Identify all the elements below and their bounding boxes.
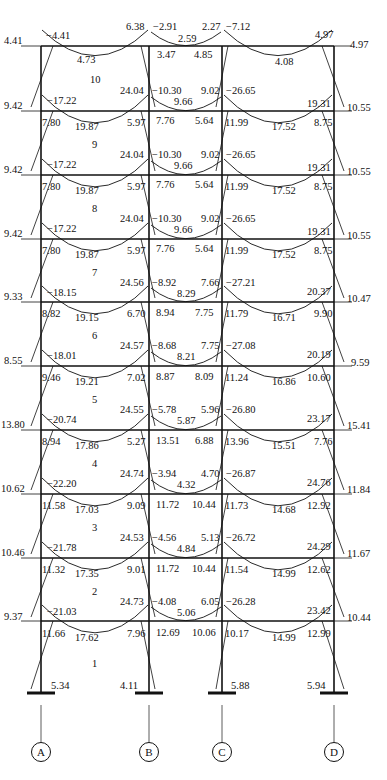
moment-value-label: 24.55 (120, 405, 144, 416)
moment-value-label: −26.87 (226, 469, 256, 480)
moment-value-label: 11.66 (42, 629, 65, 640)
moment-value-label: 8.94 (42, 437, 60, 448)
moment-value-label: 8.55 (4, 356, 22, 367)
moment-value-label: −4.08 (152, 597, 176, 608)
moment-value-label: 16.71 (272, 313, 296, 324)
moment-value-label: 9.09 (127, 501, 145, 512)
moment-value-label: 4.11 (120, 681, 138, 692)
moment-value-label: −27.08 (226, 341, 256, 352)
moment-value-label: −26.80 (226, 405, 256, 416)
moment-value-label: 7.76 (156, 116, 174, 127)
moment-value-label: 7.75 (195, 308, 213, 319)
moment-value-label: 19.21 (75, 377, 99, 388)
moment-value-label: 5.27 (127, 437, 145, 448)
moment-value-label: 2.59 (178, 34, 196, 45)
moment-value-label: 5.34 (51, 681, 69, 692)
moment-value-label: 7.80 (42, 182, 60, 193)
moment-value-label: 10.06 (192, 628, 216, 639)
moment-value-label: 10.55 (347, 103, 371, 114)
moment-value-label: 10.44 (347, 613, 371, 624)
moment-value-label: 11.99 (225, 246, 248, 257)
moment-value-label: 7.76 (156, 244, 174, 255)
story-number-label: 9 (92, 140, 97, 151)
moment-value-label: 5.97 (127, 182, 145, 193)
moment-value-label: 20.37 (307, 287, 331, 298)
moment-value-label: 7.75 (201, 341, 219, 352)
story-number-label: 10 (90, 75, 101, 86)
moment-value-label: 11.24 (225, 373, 248, 384)
moment-value-label: 19.87 (75, 250, 99, 261)
moment-value-label: −26.72 (226, 533, 256, 544)
moment-value-label: 5.64 (195, 180, 213, 191)
moment-value-label: 8.75 (314, 118, 332, 129)
moment-value-label: 13.96 (225, 437, 249, 448)
moment-value-label: −8.68 (152, 341, 176, 352)
moment-value-label: 11.84 (347, 485, 370, 496)
moment-value-label: 14.68 (272, 505, 296, 516)
moment-value-label: 14.99 (272, 633, 296, 644)
moment-value-label: 9.02 (201, 86, 219, 97)
moment-value-label: −18.01 (47, 351, 77, 362)
moment-value-label: 8.94 (156, 308, 174, 319)
moment-value-label: 5.94 (307, 681, 325, 692)
moment-value-label: 17.86 (75, 441, 99, 452)
story-number-label: 3 (92, 523, 97, 534)
moment-value-label: 10.44 (192, 564, 216, 575)
moment-value-label: 11.67 (347, 549, 370, 560)
moment-value-label: −4.41 (46, 31, 70, 42)
moment-value-label: 17.52 (272, 250, 296, 261)
moment-value-label: 4.97 (315, 30, 333, 41)
axis-marker-a: A (31, 742, 51, 762)
moment-value-label: 13.51 (156, 436, 180, 447)
moment-value-label: 13.80 (1, 420, 25, 431)
moment-value-label: 7.96 (127, 629, 145, 640)
moment-value-label: 10.17 (225, 629, 249, 640)
moment-value-label: 10.44 (192, 500, 216, 511)
moment-value-label: 4.08 (275, 57, 293, 68)
moment-value-label: 9.90 (314, 309, 332, 320)
moment-value-label: 4.84 (177, 544, 195, 555)
moment-value-label: −21.03 (47, 607, 77, 618)
moment-value-label: 19.15 (75, 313, 99, 324)
moment-value-label: 11.73 (225, 501, 248, 512)
moment-value-label: 9.02 (201, 214, 219, 225)
moment-value-label: 15.51 (272, 441, 296, 452)
moment-value-label: 24.29 (307, 542, 331, 553)
moment-value-label: 5.64 (195, 244, 213, 255)
moment-value-label: −17.22 (47, 224, 77, 235)
moment-value-label: 6.88 (195, 436, 213, 447)
moment-value-label: −22.20 (47, 479, 77, 490)
moment-value-label: 10.62 (1, 484, 25, 495)
moment-value-label: −7.12 (226, 22, 250, 33)
story-number-label: 6 (92, 331, 97, 342)
moment-value-label: 24.73 (120, 597, 144, 608)
moment-value-label: 5.13 (201, 533, 219, 544)
moment-value-label: 9.66 (174, 225, 192, 236)
moment-value-label: −17.22 (47, 160, 77, 171)
moment-value-label: 6.70 (127, 309, 145, 320)
moment-value-label: 8.82 (42, 309, 60, 320)
moment-value-label: 23.17 (307, 414, 331, 425)
moment-value-label: 10.60 (307, 373, 331, 384)
moment-value-label: 7.80 (42, 118, 60, 129)
moment-value-label: −8.92 (152, 278, 176, 289)
moment-value-label: 11.72 (156, 500, 179, 511)
moment-value-label: 19.31 (307, 227, 331, 238)
moment-value-label: 14.99 (272, 569, 296, 580)
moment-value-label: 10.47 (347, 294, 371, 305)
moment-value-label: −26.65 (226, 86, 256, 97)
moment-value-label: 5.06 (177, 608, 195, 619)
moment-value-label: 5.97 (127, 118, 145, 129)
moment-value-label: 24.53 (120, 533, 144, 544)
moment-value-label: −27.21 (226, 278, 256, 289)
moment-value-label: 23.42 (307, 606, 331, 617)
moment-value-label: 17.52 (272, 186, 296, 197)
moment-value-label: 11.99 (225, 182, 248, 193)
moment-value-label: −10.30 (152, 150, 182, 161)
moment-value-label: 11.99 (225, 118, 248, 129)
moment-value-label: −21.78 (47, 543, 77, 554)
moment-value-label: 12.92 (307, 501, 331, 512)
moment-value-label: −5.78 (152, 405, 176, 416)
moment-value-label: −26.28 (226, 597, 256, 608)
moment-value-label: 4.70 (201, 469, 219, 480)
